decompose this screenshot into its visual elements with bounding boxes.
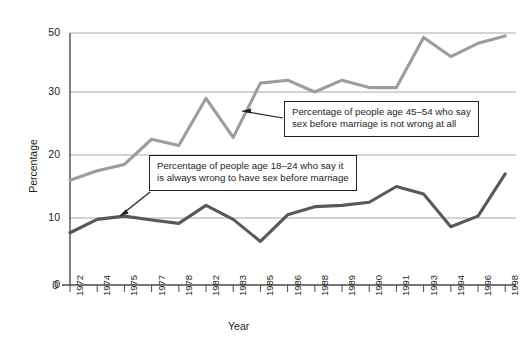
x-axis-tick-label: 1983 [237, 275, 248, 296]
x-axis-tick-label: 1986 [292, 275, 303, 296]
x-axis-tick-label: 1982 [210, 275, 221, 296]
x-axis-tick-label: 1974 [101, 275, 112, 296]
x-axis-tick-label: 1994 [455, 275, 466, 296]
arrow-to-gray-line [242, 109, 283, 119]
y-axis-tick-label: 50 [32, 26, 60, 38]
annotation-callout-age-18-24: Percentage of people age 18–24 who say i… [149, 155, 357, 191]
y-axis-title: Percentage [27, 121, 39, 211]
y-axis-tick-label: 20 [32, 148, 60, 160]
x-axis-tick-label: 1991 [400, 275, 411, 296]
line-chart: Percentage Year 010203050 0 197219741975… [0, 0, 527, 345]
annotation-line: sex before marriage is not wrong at all [292, 118, 471, 130]
y-axis-tick-label: 10 [32, 211, 60, 223]
annotation-line: is always wrong to have sex before marri… [157, 172, 349, 184]
x-axis-tick-label: 1993 [428, 275, 439, 296]
annotation-callout-age-45-54: Percentage of people age 45–54 who say s… [284, 101, 479, 137]
x-axis-tick-label: 1998 [509, 275, 520, 296]
x-axis-tick-label: 1978 [183, 275, 194, 296]
x-axis-tick-label: 1996 [482, 275, 493, 296]
x-axis-tick-label: 1977 [156, 275, 167, 296]
x-axis-origin-label: 0 [38, 279, 58, 291]
x-axis-tick-label: 1975 [128, 275, 139, 296]
x-axis-tick-label: 1985 [264, 275, 275, 296]
annotation-line: Percentage of people age 45–54 who say [292, 106, 471, 118]
x-axis-tick-label: 1989 [346, 275, 357, 296]
x-axis-tick-label: 1988 [319, 275, 330, 296]
x-axis-tick-label: 1972 [74, 275, 85, 296]
y-axis-tick-label: 30 [32, 85, 60, 97]
arrow-to-dark-line [120, 192, 150, 216]
annotation-line: Percentage of people age 18–24 who say i… [157, 160, 349, 172]
x-axis-tick-label: 1990 [373, 275, 384, 296]
x-axis-title: Year [228, 320, 249, 332]
